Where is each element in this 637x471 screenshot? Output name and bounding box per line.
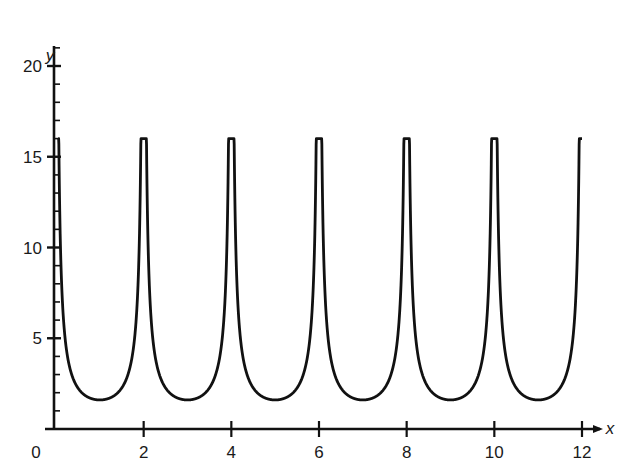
chart-canvas: 510152024681012 y x 0	[0, 0, 637, 471]
y-tick-label: 20	[23, 57, 42, 76]
x-tick-label: 2	[139, 443, 148, 462]
x-tick-label: 10	[485, 443, 504, 462]
data-series-line	[58, 139, 582, 400]
x-tick-label: 4	[227, 443, 236, 462]
origin-label: 0	[31, 443, 40, 462]
y-axis-label: y	[45, 46, 56, 65]
x-axis-label: x	[605, 419, 615, 438]
x-tick-label: 12	[573, 443, 592, 462]
y-tick-label: 15	[23, 148, 42, 167]
x-axis-arrow-icon	[593, 425, 603, 433]
x-tick-label: 8	[402, 443, 411, 462]
y-tick-label: 10	[23, 239, 42, 258]
y-tick-label: 5	[33, 329, 42, 348]
x-tick-label: 6	[314, 443, 323, 462]
plot-area	[58, 139, 582, 400]
